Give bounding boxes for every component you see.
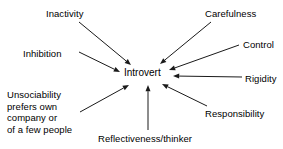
arrow-inhibition-head bbox=[113, 67, 120, 72]
arrow-unsociability-shaft bbox=[80, 88, 124, 112]
node-label-rigidity: Rigidity bbox=[245, 73, 277, 85]
node-label-carefulness: Carefulness bbox=[205, 8, 256, 20]
arrow-unsociability-head bbox=[122, 85, 129, 90]
center-node-introvert: Introvert bbox=[124, 67, 161, 79]
node-label-control: Control bbox=[243, 39, 274, 51]
node-label-inactivity: Inactivity bbox=[46, 8, 83, 20]
arrow-control-shaft bbox=[175, 45, 239, 68]
arrow-responsibility-head bbox=[162, 84, 169, 89]
arrow-control-head bbox=[169, 66, 176, 71]
node-label-inhibition: Inhibition bbox=[23, 48, 62, 60]
node-label-unsociability: Unsociability prefers own company or of … bbox=[7, 89, 72, 135]
diagram-canvas: Introvert Inactivity Carefulness Inhibit… bbox=[0, 0, 283, 149]
arrow-rigidity-shaft bbox=[179, 76, 242, 77]
node-label-reflectiveness: Reflectiveness/thinker bbox=[98, 133, 192, 145]
arrow-rigidity-head bbox=[173, 74, 179, 79]
arrow-carefulness-shaft bbox=[165, 22, 211, 60]
arrow-responsibility-shaft bbox=[168, 87, 207, 106]
node-label-responsibility: Responsibility bbox=[205, 108, 264, 120]
arrow-reflectiveness-head bbox=[146, 85, 151, 91]
arrow-inhibition-shaft bbox=[79, 52, 114, 69]
